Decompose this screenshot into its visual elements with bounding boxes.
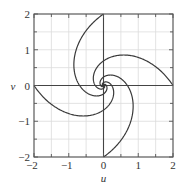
y-tick-labels: −2−1012 <box>18 8 30 163</box>
x-tick-labels: −2−1012 <box>26 159 176 171</box>
x-tick-label: −1 <box>61 159 73 171</box>
y-tick-label: 0 <box>25 80 31 92</box>
y-tick-label: 1 <box>25 44 31 56</box>
x-tick-label: 0 <box>101 159 107 171</box>
y-tick-label: −1 <box>18 115 30 127</box>
spiral-chart: −2−1012 −2−1012 u v <box>0 0 181 188</box>
y-axis-label: v <box>11 80 16 92</box>
y-tick-label: 2 <box>25 8 31 20</box>
y-tick-label: −2 <box>18 151 30 163</box>
x-tick-label: 1 <box>136 159 142 171</box>
x-axis-label: u <box>101 172 107 184</box>
x-tick-label: 2 <box>170 159 176 171</box>
